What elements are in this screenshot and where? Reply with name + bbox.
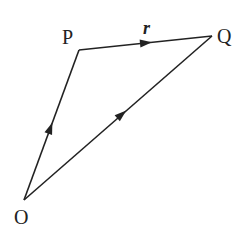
- label-q: Q: [217, 25, 232, 47]
- vector-diagram: P Q O r: [0, 0, 244, 236]
- arrow-op-icon: [45, 121, 57, 135]
- label-r: r: [143, 18, 151, 38]
- label-p: P: [62, 26, 73, 48]
- label-o: O: [14, 206, 28, 228]
- arrow-pq-icon: [140, 38, 153, 47]
